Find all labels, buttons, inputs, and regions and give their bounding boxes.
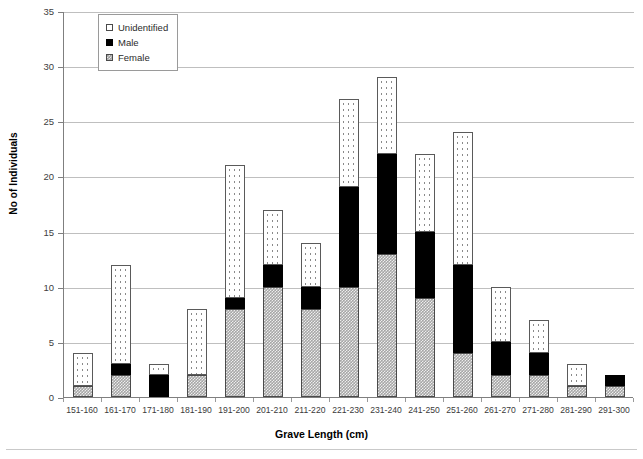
- bar-slot: [596, 11, 634, 397]
- x-tick-label: 241-250: [403, 404, 445, 416]
- bar-segment-female[interactable]: [111, 375, 131, 397]
- bar-segment-male[interactable]: [149, 375, 169, 397]
- bar-segment-unidentified[interactable]: [73, 353, 93, 386]
- x-tick-mark: [329, 398, 330, 402]
- legend-label: Unidentified: [118, 23, 168, 33]
- y-tick-label: 5: [20, 338, 54, 348]
- stacked-bar[interactable]: [605, 375, 625, 397]
- bar-segment-female[interactable]: [263, 287, 283, 397]
- x-tick-mark: [63, 398, 64, 402]
- bar-segment-male[interactable]: [263, 265, 283, 287]
- bar-segment-female[interactable]: [491, 375, 511, 397]
- bar-segment-male[interactable]: [453, 265, 473, 353]
- bar-segment-female[interactable]: [377, 254, 397, 397]
- stacked-bar[interactable]: [301, 243, 321, 397]
- bar-segment-female[interactable]: [73, 386, 93, 397]
- bar-segment-female[interactable]: [529, 375, 549, 397]
- stacked-bar[interactable]: [491, 287, 511, 397]
- stacked-bar[interactable]: [339, 99, 359, 397]
- bar-segment-unidentified[interactable]: [339, 99, 359, 187]
- bar-segment-unidentified[interactable]: [149, 364, 169, 375]
- bar-segment-female[interactable]: [187, 375, 207, 397]
- stacked-bar[interactable]: [149, 364, 169, 397]
- x-tick-mark: [481, 398, 482, 402]
- bar-slot: [520, 11, 558, 397]
- bar-segment-male[interactable]: [491, 342, 511, 375]
- bar-segment-male[interactable]: [605, 375, 625, 386]
- bar-segment-female[interactable]: [301, 309, 321, 397]
- x-tick-label: 201-210: [251, 404, 293, 416]
- y-tick-label: 10: [20, 283, 54, 293]
- stacked-bar[interactable]: [377, 77, 397, 397]
- x-tick-label: 171-180: [137, 404, 179, 416]
- stacked-bar[interactable]: [73, 353, 93, 397]
- bar-slot: [64, 11, 102, 397]
- x-tick-label: 271-280: [517, 404, 559, 416]
- x-axis-ticks: 151-160161-170171-180181-190191-200201-2…: [63, 404, 633, 420]
- x-tick-mark: [101, 398, 102, 402]
- x-axis-title: Grave Length (cm): [0, 428, 643, 440]
- legend-swatch-male-icon: [106, 39, 113, 46]
- x-tick-mark: [177, 398, 178, 402]
- bar-segment-female[interactable]: [605, 386, 625, 397]
- x-tick-label: 261-270: [479, 404, 521, 416]
- bar-segment-unidentified[interactable]: [301, 243, 321, 287]
- x-tick-mark: [291, 398, 292, 402]
- x-tick-label: 161-170: [99, 404, 141, 416]
- stacked-bar[interactable]: [187, 309, 207, 397]
- stacked-bar[interactable]: [415, 154, 435, 397]
- stacked-bar[interactable]: [453, 132, 473, 397]
- y-tick-label: 25: [20, 117, 54, 127]
- caption-divider: [6, 449, 637, 450]
- bar-slot: [330, 11, 368, 397]
- bar-segment-female[interactable]: [453, 353, 473, 397]
- x-tick-label: 281-290: [555, 404, 597, 416]
- x-tick-mark: [443, 398, 444, 402]
- x-tick-mark: [215, 398, 216, 402]
- bar-segment-unidentified[interactable]: [111, 265, 131, 364]
- bar-segment-male[interactable]: [301, 287, 321, 309]
- legend-item[interactable]: Unidentified: [106, 20, 168, 35]
- legend-swatch-female-icon: [106, 54, 113, 61]
- bar-segment-female[interactable]: [225, 309, 245, 397]
- stacked-bar[interactable]: [263, 210, 283, 397]
- legend-swatch-unidentified-icon: [106, 24, 113, 31]
- bar-segment-unidentified[interactable]: [263, 210, 283, 265]
- stacked-bar[interactable]: [567, 364, 587, 397]
- bar-segment-unidentified[interactable]: [529, 320, 549, 353]
- stacked-bar[interactable]: [529, 320, 549, 397]
- bar-segment-male[interactable]: [529, 353, 549, 375]
- bar-segment-unidentified[interactable]: [415, 154, 435, 231]
- bar-slot: [482, 11, 520, 397]
- y-axis-title: No of Individuals: [8, 99, 19, 249]
- bar-segment-female[interactable]: [567, 386, 587, 397]
- bar-slot: [368, 11, 406, 397]
- bar-segment-unidentified[interactable]: [567, 364, 587, 386]
- bar-segment-male[interactable]: [415, 232, 435, 298]
- legend-label: Female: [118, 53, 150, 63]
- bar-segment-male[interactable]: [111, 364, 131, 375]
- stacked-bar[interactable]: [111, 265, 131, 397]
- legend-item[interactable]: Male: [106, 35, 168, 50]
- stacked-bar[interactable]: [225, 165, 245, 397]
- x-tick-mark: [253, 398, 254, 402]
- x-tick-mark: [633, 398, 634, 402]
- bar-segment-unidentified[interactable]: [453, 132, 473, 264]
- bar-slot: [558, 11, 596, 397]
- bar-segment-male[interactable]: [225, 298, 245, 309]
- bar-slot: [444, 11, 482, 397]
- legend-item[interactable]: Female: [106, 50, 168, 65]
- x-tick-mark: [519, 398, 520, 402]
- x-tick-label: 231-240: [365, 404, 407, 416]
- x-tick-mark: [557, 398, 558, 402]
- bar-segment-unidentified[interactable]: [491, 287, 511, 342]
- bar-segment-unidentified[interactable]: [225, 165, 245, 297]
- legend-label: Male: [118, 38, 139, 48]
- bar-segment-male[interactable]: [377, 154, 397, 253]
- bar-segment-female[interactable]: [415, 298, 435, 397]
- bar-segment-unidentified[interactable]: [187, 309, 207, 375]
- bar-segment-female[interactable]: [339, 287, 359, 397]
- bar-segment-unidentified[interactable]: [377, 77, 397, 154]
- bar-segment-male[interactable]: [339, 187, 359, 286]
- bar-slot: [406, 11, 444, 397]
